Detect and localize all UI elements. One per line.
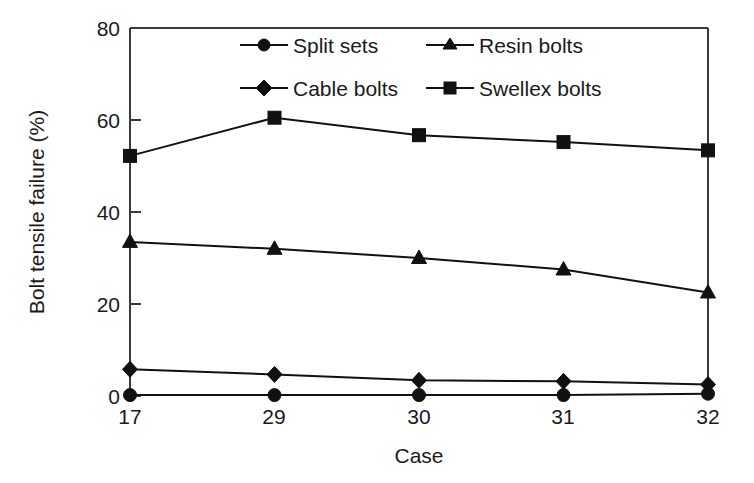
diamond-icon bbox=[256, 80, 272, 96]
legend-item-swellex-bolts[interactable]: Swellex bolts bbox=[426, 77, 602, 100]
diamond-marker bbox=[123, 361, 138, 377]
x-tick-label-17: 17 bbox=[118, 405, 141, 428]
circle-marker bbox=[268, 389, 281, 402]
x-tick-label-30: 30 bbox=[407, 405, 430, 428]
diamond-marker bbox=[267, 366, 282, 382]
x-tick-label-31: 31 bbox=[551, 405, 574, 428]
series-split-sets bbox=[124, 387, 715, 401]
square-icon bbox=[444, 82, 456, 94]
square-marker bbox=[124, 149, 137, 162]
plot-frame bbox=[130, 28, 708, 396]
line-chart-canvas: 0 20 40 60 80 Bolt tensile failure (%) 1… bbox=[0, 0, 754, 483]
y-tick-label-60: 60 bbox=[97, 109, 120, 132]
legend-label-split-sets: Split sets bbox=[293, 34, 378, 57]
square-marker bbox=[557, 136, 570, 149]
square-marker bbox=[413, 129, 426, 142]
y-axis-ticks bbox=[130, 28, 141, 396]
y-tick-label-80: 80 bbox=[97, 17, 120, 40]
circle-marker bbox=[413, 389, 426, 402]
x-axis-title: Case bbox=[394, 444, 443, 467]
y-tick-label-20: 20 bbox=[97, 293, 120, 316]
triangle-marker bbox=[123, 234, 138, 248]
triangle-icon bbox=[443, 38, 457, 49]
chart-legend: Split sets Resin bolts Cable bolts Swell… bbox=[240, 34, 602, 100]
diamond-marker bbox=[556, 373, 571, 389]
square-marker bbox=[702, 144, 715, 157]
x-tick-label-29: 29 bbox=[262, 405, 285, 428]
legend-label-resin-bolts: Resin bolts bbox=[479, 34, 583, 57]
y-tick-label-40: 40 bbox=[97, 201, 120, 224]
legend-item-resin-bolts[interactable]: Resin bolts bbox=[426, 34, 583, 57]
series-cable-bolts bbox=[123, 361, 716, 392]
x-tick-label-32: 32 bbox=[696, 405, 719, 428]
x-axis-tick-labels: 17 29 30 31 32 bbox=[118, 405, 719, 428]
circle-icon bbox=[258, 39, 270, 51]
chart-figure: 0 20 40 60 80 Bolt tensile failure (%) 1… bbox=[0, 0, 754, 483]
series-swellex-bolts bbox=[124, 111, 715, 162]
square-marker bbox=[268, 111, 281, 124]
y-axis-tick-labels: 0 20 40 60 80 bbox=[97, 17, 120, 408]
data-series-layer bbox=[123, 111, 716, 401]
legend-label-cable-bolts: Cable bolts bbox=[293, 77, 398, 100]
diamond-marker bbox=[412, 372, 427, 388]
series-resin-bolts bbox=[123, 234, 716, 298]
circle-marker bbox=[557, 389, 570, 402]
legend-item-split-sets[interactable]: Split sets bbox=[240, 34, 378, 57]
legend-label-swellex-bolts: Swellex bolts bbox=[479, 77, 602, 100]
legend-item-cable-bolts[interactable]: Cable bolts bbox=[240, 77, 398, 100]
y-axis-title: Bolt tensile failure (%) bbox=[25, 110, 48, 314]
circle-marker bbox=[124, 389, 137, 402]
